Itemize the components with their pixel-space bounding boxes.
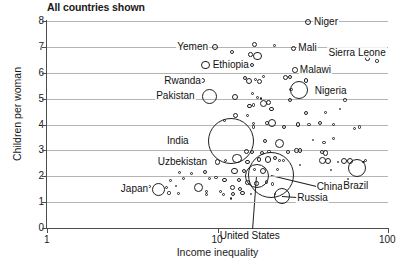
data-bubble-labeled [202,89,217,104]
y-axis-tick-mark [42,228,46,229]
y-axis-tick-mark [42,21,46,22]
data-bubble [214,176,217,179]
y-axis-tick-mark [42,125,46,126]
data-bubble [332,137,335,140]
data-bubble [299,164,301,166]
point-label-malawi: Malawi [299,64,332,75]
plot-area: NigerYemenMaliSierra LeoneMalawiEthiopia… [47,21,388,228]
data-bubble [375,59,378,62]
data-bubble [263,139,267,143]
point-label-pakistan: Pakistan [155,90,195,101]
data-bubble [323,150,328,155]
data-bubble [324,111,327,114]
data-bubble-labeled [291,46,296,51]
x-axis-tick-mark [388,229,389,233]
data-bubble [250,193,252,195]
data-bubble [203,170,207,174]
y-axis-tick-mark [42,202,46,203]
data-bubble [252,122,255,125]
data-bubble [339,108,341,110]
data-bubble [233,113,238,118]
data-bubble [337,161,340,164]
chart-figure: All countries shown 012345678 NigerYemen… [0,0,405,263]
y-axis-tick-mark [42,99,46,100]
data-bubble-labeled [348,159,366,177]
x-axis-title: Income inequality [47,246,388,258]
data-bubble [175,185,178,188]
data-bubble [298,148,302,152]
y-axis-tick-mark [42,176,46,177]
data-bubble [353,127,356,130]
data-bubble [282,125,286,129]
data-bubble [252,103,255,106]
point-label-sierra-leone: Sierra Leone [327,47,386,58]
data-bubble [222,193,225,196]
chart-title: All countries shown [47,1,145,13]
y-axis-tick-mark [42,150,46,151]
y-axis-tick-mark [42,73,46,74]
data-bubble [167,191,170,194]
data-bubble [288,75,292,79]
data-bubble [245,160,249,164]
data-bubble [253,52,262,61]
point-label-china: China [316,181,344,192]
data-bubble [177,192,180,195]
data-bubble [194,183,203,192]
data-bubble [230,185,235,190]
data-bubble [358,125,362,129]
data-bubble [269,107,274,112]
data-bubble [330,169,332,171]
data-bubble [165,186,168,189]
x-axis-tick-label: 1 [44,234,50,245]
point-label-brazil: Brazil [342,180,369,191]
data-bubble [246,78,252,84]
point-label-rwanda: Rwanda [163,75,202,86]
data-bubble [251,92,255,96]
y-axis-tick-mark [42,47,46,48]
data-bubble [296,122,300,126]
data-bubble-labeled [305,19,311,25]
data-bubble [312,139,314,141]
data-bubble [231,192,235,196]
data-bubble [208,177,211,180]
point-label-japan: Japan [120,183,149,194]
data-bubble [268,119,276,127]
data-bubble [322,141,326,145]
data-bubble [325,158,331,164]
data-bubble [275,139,284,148]
y-axis-title: Children per woman [11,49,23,179]
data-bubble [190,172,193,175]
gridline [47,73,388,74]
point-label-russia: Russia [296,192,329,203]
data-bubble [205,193,208,196]
point-label-uzbekistan: Uzbekistan [157,156,208,167]
point-label-india: India [166,135,190,146]
data-bubble [247,104,251,108]
y-axis-tick-labels: 012345678 [26,0,44,263]
data-bubble [246,114,250,118]
point-label-niger: Niger [313,16,339,27]
data-bubble-labeled [245,164,269,188]
x-axis-tick-label: 100 [379,234,396,245]
data-bubble [332,123,335,126]
data-bubble [232,94,238,100]
data-bubble-labeled [290,81,308,99]
x-axis-tick-mark [218,229,219,233]
data-bubble-labeled [208,118,254,164]
data-bubble [288,98,292,102]
data-bubble [262,75,265,78]
data-bubble [240,191,245,196]
data-bubble [237,178,241,182]
data-bubble-labeled [212,44,218,50]
point-label-yemen: Yemen [176,41,209,52]
point-label-nigeria: Nigeria [314,85,348,96]
gridline [47,202,388,203]
data-bubble [178,171,181,174]
data-bubble-labeled [215,159,221,165]
data-bubble-labeled [201,61,209,69]
data-bubble-labeled [292,67,298,73]
x-axis-tick-label: 10 [212,234,223,245]
data-bubble [343,98,346,101]
data-bubble [231,168,237,174]
data-bubble [230,197,233,200]
